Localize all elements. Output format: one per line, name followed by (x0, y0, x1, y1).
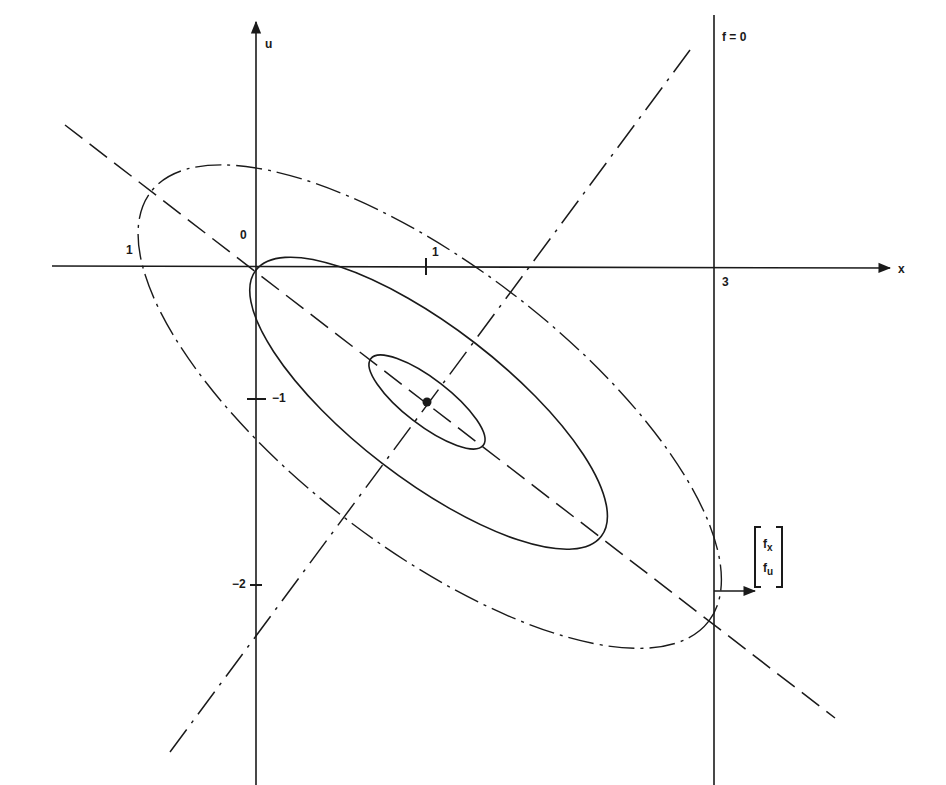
x-axis (52, 266, 890, 268)
major-axis-line (65, 125, 835, 718)
u-axis-label: u (265, 38, 272, 50)
u-tick-label-minus-2: −2 (232, 578, 246, 590)
u-tick-label-minus-1: −1 (272, 392, 286, 404)
x-tick-label-minus-1: 1 (126, 244, 133, 256)
gradient-fx-sub: x (767, 542, 773, 553)
x-axis-label: x (898, 263, 905, 275)
gradient-bracket-right (776, 527, 782, 587)
contour-outer (65, 81, 794, 732)
center-point (423, 398, 432, 407)
gradient-fu-sub: u (767, 566, 773, 577)
contour-diagram (0, 0, 946, 785)
constraint-label: f = 0 (722, 31, 746, 43)
gradient-fu: fu (763, 562, 773, 577)
x-tick-label-1: 1 (432, 246, 439, 258)
gradient-fx: fx (763, 538, 773, 553)
x-tick-label-3: 3 (722, 276, 729, 288)
gradient-bracket-left (755, 527, 761, 587)
origin-label: 0 (240, 229, 247, 241)
